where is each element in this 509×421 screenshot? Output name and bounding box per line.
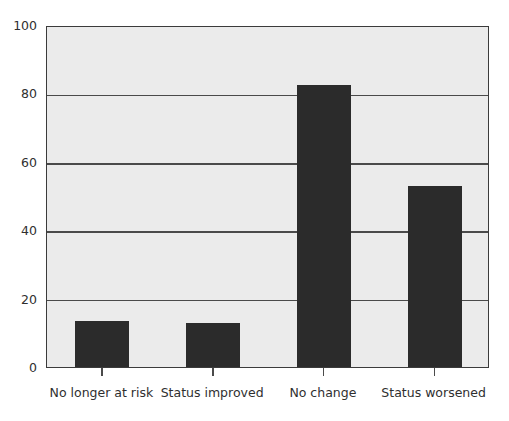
x-tick-label: Status worsened	[381, 386, 486, 400]
x-tick	[212, 368, 214, 376]
x-tick	[101, 368, 103, 376]
y-tick-label: 40	[3, 225, 37, 238]
bar	[75, 321, 129, 367]
bar	[408, 186, 462, 367]
y-tick-label: 20	[3, 294, 37, 307]
x-tick-label: No change	[289, 386, 356, 400]
plot-area	[46, 26, 489, 368]
y-tick-label: 80	[3, 88, 37, 101]
x-tick	[434, 368, 436, 376]
gridline	[47, 163, 488, 165]
bar	[297, 85, 351, 367]
bar	[186, 323, 240, 367]
y-tick-label: 60	[3, 157, 37, 170]
x-tick-label: Status improved	[161, 386, 264, 400]
bar-chart-figure: 020406080100 No longer at riskStatus imp…	[0, 0, 509, 421]
y-tick-label: 0	[3, 362, 37, 375]
x-tick-label: No longer at risk	[50, 386, 154, 400]
y-tick-label: 100	[3, 20, 37, 33]
x-tick	[323, 368, 325, 376]
gridline	[47, 95, 488, 97]
